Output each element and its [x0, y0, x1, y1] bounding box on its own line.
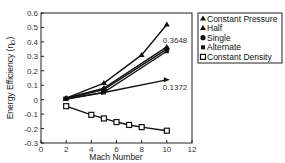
y-tick-label: 0.2	[27, 67, 39, 76]
series-line	[66, 80, 167, 99]
series-half	[63, 44, 170, 100]
open-square-marker	[201, 54, 206, 59]
y-axis-label: Energy Efficiency (ηD)	[5, 37, 16, 120]
open-square-marker	[114, 120, 119, 125]
y-tick-label: 0.6	[27, 9, 39, 18]
y-tick-label: -0.3	[24, 139, 38, 148]
open-square-marker	[64, 104, 69, 109]
legend-label: Constant Density	[207, 52, 272, 62]
legend-item: Constant Density	[201, 52, 273, 62]
triangle-marker	[164, 22, 170, 27]
legend-label: Single	[207, 33, 231, 43]
legend-item: Alternate	[201, 42, 241, 52]
x-tick-label: 12	[188, 145, 197, 154]
square-marker	[165, 49, 169, 53]
circle-marker	[200, 35, 205, 40]
x-tick-label: 10	[162, 145, 171, 154]
y-tick-label: 0.1	[27, 81, 39, 90]
legend-label: Constant Pressure	[207, 14, 278, 24]
value-annotation: 0.3648	[163, 36, 188, 45]
arrow-marker	[164, 77, 170, 82]
x-axis-label: Mach Number	[89, 152, 143, 162]
open-square-marker	[101, 116, 106, 121]
y-tick-label: 0.5	[27, 23, 39, 32]
x-tick-label: 2	[64, 145, 69, 154]
series-constant-pressure	[63, 22, 170, 101]
y-tick-label: 0.3	[27, 52, 39, 61]
open-square-marker	[89, 112, 94, 117]
x-tick-label: 0	[39, 145, 44, 154]
series-line	[66, 106, 167, 131]
legend-label: Alternate	[207, 42, 241, 52]
y-tick-label: -0.2	[24, 125, 38, 134]
energy-efficiency-chart: 0.60.50.40.30.20.10-0.1-0.2-0.3 02468101…	[0, 0, 285, 163]
open-square-marker	[127, 122, 132, 127]
legend-item: Constant Pressure	[200, 14, 278, 24]
square-marker	[201, 45, 205, 49]
y-tick-label: -0.1	[24, 110, 38, 119]
legend-label: Half	[207, 23, 223, 33]
y-tick-label: 0.4	[27, 38, 39, 47]
open-square-marker	[164, 128, 169, 133]
open-square-marker	[139, 125, 144, 130]
legend: Constant PressureHalfSingleAlternateCons…	[198, 13, 282, 63]
value-annotation: 0.1372	[163, 83, 188, 92]
series-constant-density	[64, 104, 170, 134]
y-tick-label: 0	[34, 96, 39, 105]
